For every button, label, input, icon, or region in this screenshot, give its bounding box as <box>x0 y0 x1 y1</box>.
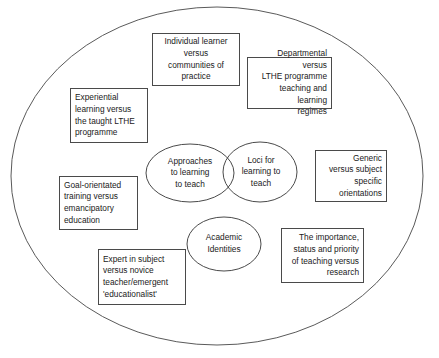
theme-box-experiential-learning-versus-taught-lthe[interactable]: Experiential learning versus the taught … <box>70 88 148 143</box>
theme-box-individual-learner-versus-communities-of-practice[interactable]: Individual learner versus communities of… <box>152 33 240 86</box>
theme-box-label: Departmental versus LTHE programme teach… <box>252 48 327 118</box>
theme-box-departmental-versus-lthe-programme[interactable]: Departmental versus LTHE programme teach… <box>247 57 332 109</box>
theme-box-label: Generic versus subject specific orientat… <box>320 153 382 199</box>
theme-box-label: Goal-orientated training versus emancipa… <box>64 180 133 226</box>
theme-box-label: The importance, status and priority of t… <box>286 232 359 278</box>
theme-box-label: Individual learner versus communities of… <box>157 36 235 82</box>
theme-box-label: Expert in subject versus novice teacher/… <box>103 254 181 300</box>
theme-box-goal-orientated-training-versus-emancipatory-education[interactable]: Goal-orientated training versus emancipa… <box>59 176 138 230</box>
theme-box-expert-in-subject-versus-novice-teacher[interactable]: Expert in subject versus novice teacher/… <box>98 249 186 305</box>
core-node-academic-identities[interactable]: Academic Identities <box>187 217 261 271</box>
core-node-loci-for-learning-to-teach[interactable]: Loci for learning to teach <box>224 142 298 202</box>
core-node-approaches-to-learning-to-teach[interactable]: Approaches to learning to teach <box>146 144 234 202</box>
core-node-label: Academic Identities <box>206 232 242 255</box>
theme-box-label: Experiential learning versus the taught … <box>75 92 143 138</box>
core-node-label: Approaches to learning to teach <box>168 156 212 191</box>
theme-box-importance-status-priority-of-teaching-versus-research[interactable]: The importance, status and priority of t… <box>281 228 364 283</box>
core-node-label: Loci for learning to teach <box>242 155 281 190</box>
theme-box-generic-versus-subject-specific-orientations[interactable]: Generic versus subject specific orientat… <box>315 150 387 202</box>
diagram-canvas: Approaches to learning to teach Loci for… <box>0 0 439 358</box>
